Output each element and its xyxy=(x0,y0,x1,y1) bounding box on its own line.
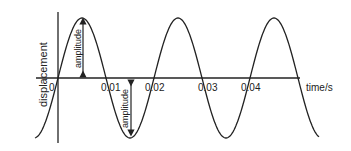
amplitude-label-bottom: amplitude xyxy=(120,89,130,128)
tick-label-0-01: 0.01 xyxy=(101,83,120,93)
tick-label-0: 0 xyxy=(49,83,55,93)
tick-label-0-02: 0.02 xyxy=(145,83,164,93)
y-axis-label: displacement xyxy=(37,42,49,107)
tick-label-0-04: 0.04 xyxy=(241,83,260,93)
tick-label-0-03: 0.03 xyxy=(198,83,217,93)
x-axis-label: time/s xyxy=(306,83,333,93)
wave-diagram xyxy=(0,0,351,151)
amplitude-label-top: amplitude xyxy=(73,29,83,68)
